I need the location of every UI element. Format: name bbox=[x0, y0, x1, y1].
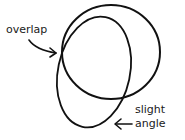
tilted-ellipse-shape bbox=[47, 10, 141, 135]
slight-label: slight bbox=[135, 104, 165, 115]
overlap-label: overlap bbox=[6, 24, 47, 35]
angle-arrow-icon bbox=[115, 119, 132, 129]
overlap-arrow-icon bbox=[29, 40, 56, 57]
angle-label: angle bbox=[135, 118, 166, 129]
